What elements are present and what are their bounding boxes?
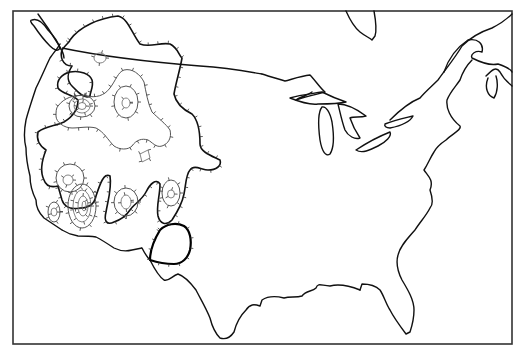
map-frame	[13, 11, 512, 344]
contour-tick	[85, 189, 87, 191]
contour-tick	[124, 217, 126, 219]
contour-tick	[66, 103, 69, 104]
contour-tick	[130, 84, 131, 87]
contour-tick	[149, 104, 152, 105]
contour-tick	[46, 206, 49, 207]
contour-tick	[94, 216, 97, 217]
contour-tick	[55, 171, 58, 172]
contour-tick	[74, 162, 75, 165]
lake-michigan	[319, 107, 334, 155]
contour-tick	[64, 97, 66, 100]
contour-tick	[83, 100, 84, 103]
contour-tick	[76, 212, 79, 213]
contour-tick	[131, 209, 133, 211]
hudson-bay-outline	[346, 11, 376, 40]
contour-tick	[91, 56, 94, 57]
contour-tick	[154, 145, 156, 148]
gaspe-peninsula	[444, 40, 512, 72]
contour-tick	[75, 183, 77, 186]
contour-tick	[149, 158, 150, 161]
contour-arizona-ring-1	[114, 188, 138, 216]
contour-utah-small	[140, 150, 150, 162]
contour-tick	[73, 101, 75, 103]
contour-tick	[56, 207, 58, 209]
nova-scotia	[486, 69, 512, 98]
us-mexico-border	[62, 230, 142, 251]
contour-tick	[139, 151, 140, 154]
contour-tick	[146, 140, 147, 143]
contour-tick	[86, 93, 87, 96]
contour-montana-ring-2	[122, 98, 130, 108]
contour-socal-ring-4	[82, 201, 86, 211]
contour-tick	[137, 93, 140, 94]
contour-tick	[166, 196, 169, 197]
contour-central-mid	[56, 70, 171, 149]
contour-tick	[161, 118, 163, 120]
contour-tick	[154, 111, 156, 113]
contour-montana-ring-1	[114, 86, 138, 118]
contour-tick	[48, 214, 51, 215]
contour-tick	[177, 202, 179, 204]
contour-tick	[61, 190, 63, 192]
contour-tick	[74, 90, 76, 92]
contour-tick	[110, 144, 112, 146]
contour-tick	[139, 41, 141, 43]
contour-tick	[68, 128, 69, 131]
contour-tick	[112, 95, 115, 96]
contour-tick	[85, 113, 86, 116]
contour-tick	[70, 63, 71, 66]
contour-tick	[172, 187, 173, 190]
contour-tick	[98, 182, 101, 183]
contour-tick	[122, 107, 124, 109]
lake-erie	[356, 132, 390, 152]
contour-tick	[54, 182, 57, 183]
contour-tick	[180, 103, 182, 105]
contour-tick	[84, 222, 85, 225]
lake-huron	[338, 104, 366, 139]
contour-tick	[102, 50, 103, 53]
contour-tick	[80, 228, 81, 231]
contour-tick	[132, 68, 133, 71]
contour-tick	[89, 215, 92, 216]
contour-tick	[61, 176, 63, 178]
contour-tick	[64, 206, 66, 208]
contour-tick	[120, 149, 121, 152]
contour-tick	[144, 195, 146, 197]
contour-tick	[191, 169, 193, 171]
contour-tick	[82, 169, 85, 170]
lake-ontario	[385, 116, 413, 128]
contour-tick	[124, 192, 125, 195]
contour-tick	[140, 75, 142, 77]
contour-tick	[168, 177, 169, 180]
contour-tick	[111, 106, 114, 107]
contour-tick	[178, 221, 179, 224]
contour-tick	[90, 114, 92, 116]
contour-west-texas-bold	[150, 224, 191, 264]
contour-tick	[148, 149, 151, 150]
contour-tick	[114, 77, 117, 79]
contour-tick	[119, 85, 121, 88]
contour-tick	[103, 136, 105, 138]
contour-western-outer	[37, 16, 220, 223]
contour-tick	[75, 202, 78, 203]
contour-tick	[176, 47, 178, 49]
contour-tick	[134, 190, 136, 192]
contour-tick	[81, 187, 83, 189]
contour-tick	[90, 198, 93, 199]
contour-tick	[139, 161, 142, 162]
contour-tick	[103, 211, 106, 212]
map-canvas	[0, 0, 525, 359]
st-lawrence-river	[390, 14, 512, 120]
contour-tick	[135, 211, 137, 213]
contour-nevada-ring-2	[63, 175, 73, 185]
contour-tick	[79, 208, 82, 209]
contour-tick	[109, 85, 111, 87]
contour-tick	[114, 191, 116, 193]
contour-idaho-ring-3	[78, 103, 86, 110]
contour-tick	[45, 125, 46, 128]
canada-shoreline	[262, 74, 325, 100]
contour-tick	[89, 225, 91, 227]
contour-tick	[136, 112, 139, 114]
contour-tick	[66, 41, 68, 43]
contour-tick	[71, 200, 74, 201]
